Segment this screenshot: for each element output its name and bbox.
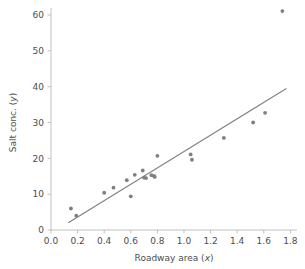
y-tick-label: 50 bbox=[33, 46, 45, 56]
data-point bbox=[190, 158, 194, 162]
y-tick-label: 20 bbox=[33, 154, 45, 164]
data-point bbox=[144, 176, 148, 180]
data-point bbox=[251, 121, 255, 125]
axes bbox=[51, 8, 297, 230]
x-tick-label: 0.0 bbox=[44, 236, 59, 246]
data-point bbox=[129, 194, 133, 198]
x-tick-label: 0.8 bbox=[150, 236, 165, 246]
y-axis-title: Salt conc. (y) bbox=[8, 93, 18, 152]
data-point bbox=[141, 169, 145, 173]
x-axis-ticks: 0.00.20.40.60.81.01.21.41.61.8 bbox=[44, 230, 298, 246]
data-points bbox=[69, 9, 284, 217]
data-point bbox=[74, 214, 78, 218]
y-tick-label: 0 bbox=[38, 225, 44, 235]
data-point bbox=[153, 175, 157, 179]
y-tick-label: 40 bbox=[33, 82, 45, 92]
x-tick-label: 1.4 bbox=[230, 236, 245, 246]
data-point bbox=[125, 178, 129, 182]
plot-canvas: 0.00.20.40.60.81.01.21.41.61.8 010203040… bbox=[0, 0, 305, 269]
y-tick-label: 60 bbox=[33, 10, 45, 20]
data-point bbox=[133, 173, 137, 177]
data-point bbox=[263, 111, 267, 115]
x-tick-label: 0.4 bbox=[97, 236, 112, 246]
data-point bbox=[112, 186, 116, 190]
data-point bbox=[155, 154, 159, 158]
regression-line bbox=[68, 88, 286, 222]
data-point bbox=[69, 207, 73, 211]
data-point bbox=[102, 191, 106, 195]
data-point bbox=[280, 9, 284, 13]
x-tick-label: 0.2 bbox=[70, 236, 84, 246]
x-axis-title: Roadway area (x) bbox=[135, 253, 214, 263]
data-point bbox=[222, 136, 226, 140]
y-axis-ticks: 0102030405060 bbox=[33, 10, 51, 235]
x-tick-label: 1.8 bbox=[283, 236, 298, 246]
data-point bbox=[189, 152, 193, 156]
y-tick-label: 10 bbox=[33, 189, 45, 199]
scatter-plot-figure: 0.00.20.40.60.81.01.21.41.61.8 010203040… bbox=[0, 0, 305, 269]
y-tick-label: 30 bbox=[33, 118, 45, 128]
x-tick-label: 1.2 bbox=[203, 236, 217, 246]
x-tick-label: 1.6 bbox=[257, 236, 272, 246]
x-tick-label: 1.0 bbox=[177, 236, 192, 246]
x-tick-label: 0.6 bbox=[124, 236, 139, 246]
regression-line-segment bbox=[68, 88, 286, 222]
